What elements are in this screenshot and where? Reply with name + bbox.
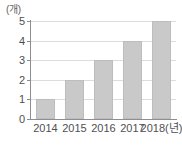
plot-area [31,21,176,119]
y-axis-tick-label: 1 [1,94,25,105]
y-axis-tick-label: 2 [1,75,25,86]
y-axis-tick-label: 5 [1,16,25,27]
x-axis-tick-label: 2018(년) [138,122,182,134]
bar-chart: (개) 012345 20142015201620172018(년) [0,0,182,145]
x-axis-labels: 20142015201620172018(년) [31,122,182,142]
y-axis-tick-label: 4 [1,36,25,47]
bar [65,80,84,119]
x-axis-line [30,119,177,120]
y-axis-tick [27,119,31,120]
bar [152,21,171,119]
bar [94,60,113,119]
bar [123,41,142,119]
y-axis-tick-label: 3 [1,55,25,66]
bar [36,99,55,119]
